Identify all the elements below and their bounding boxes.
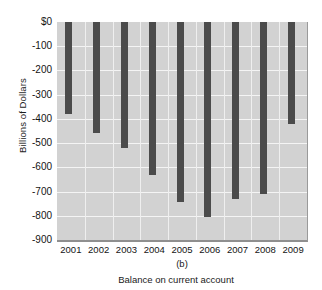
y-axis-tick-label: -200: [0, 64, 52, 75]
bar: [177, 22, 184, 202]
x-axis-tick-label: 2004: [144, 244, 165, 255]
x-axis-tick-label: 2002: [88, 244, 109, 255]
vertical-gridline: [224, 22, 225, 240]
y-axis-tick-label: $0: [0, 16, 52, 27]
x-axis-title: Balance on current account: [36, 274, 316, 285]
plot-inner: [57, 22, 307, 240]
vertical-gridline: [196, 22, 197, 240]
y-axis-tick-label: -300: [0, 89, 52, 100]
y-axis-tick-label: -900: [0, 234, 52, 245]
y-axis-tick-label: -800: [0, 210, 52, 221]
bar: [288, 22, 295, 124]
y-axis-tick-label: -700: [0, 186, 52, 197]
vertical-gridline: [168, 22, 169, 240]
bar: [260, 22, 267, 194]
vertical-gridline: [279, 22, 280, 240]
x-axis-tick-label: 2001: [60, 244, 81, 255]
bar: [121, 22, 128, 148]
bar: [149, 22, 156, 175]
x-axis-tick-label: 2007: [227, 244, 248, 255]
plot-area: [57, 22, 308, 242]
vertical-gridline: [140, 22, 141, 240]
y-axis-tick-label: -100: [0, 40, 52, 51]
y-axis-tick-label: -400: [0, 113, 52, 124]
x-axis-tick-label: 2003: [116, 244, 137, 255]
vertical-gridline: [85, 22, 86, 240]
bar: [204, 22, 211, 217]
x-axis-tick-label: 2009: [283, 244, 304, 255]
bar: [232, 22, 239, 199]
bar: [93, 22, 100, 133]
chart-figure: Billions of Dollars $0-100-200-300-400-5…: [0, 0, 322, 290]
y-axis-tick-label: -500: [0, 137, 52, 148]
x-axis-tick-label: 2006: [199, 244, 220, 255]
horizontal-gridline: [57, 216, 307, 217]
x-axis-tick-label: 2005: [171, 244, 192, 255]
panel-label: (b): [57, 258, 307, 269]
x-axis-tick-label: 2008: [255, 244, 276, 255]
bar: [65, 22, 72, 114]
vertical-gridline: [251, 22, 252, 240]
vertical-gridline: [113, 22, 114, 240]
y-axis-tick-label: -600: [0, 161, 52, 172]
